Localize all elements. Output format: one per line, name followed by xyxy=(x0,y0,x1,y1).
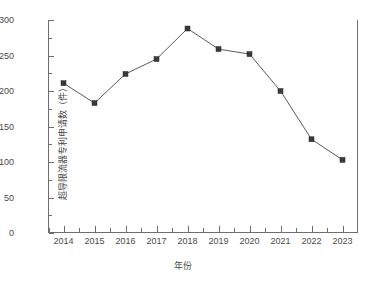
x-tick-label: 2023 xyxy=(332,236,352,246)
data-point xyxy=(154,57,159,62)
data-point xyxy=(61,81,66,86)
y-tick-label: 150 xyxy=(0,122,14,132)
x-tick-label: 2018 xyxy=(177,236,197,246)
y-tick-label: 50 xyxy=(4,193,14,203)
data-point xyxy=(185,26,190,31)
x-tick-label: 2021 xyxy=(270,236,290,246)
x-axis-title: 年份 xyxy=(0,259,366,272)
x-tick-label: 2019 xyxy=(208,236,228,246)
x-tick-label: 2017 xyxy=(146,236,166,246)
x-tick-label: 2022 xyxy=(301,236,321,246)
y-tick-label: 0 xyxy=(9,228,14,238)
data-point xyxy=(278,89,283,94)
y-tick-label: 100 xyxy=(0,157,14,167)
data-point xyxy=(123,71,128,76)
chart-figure: 超导限流器专利申请数（件） 年份 050100150200250300 2014… xyxy=(0,0,366,281)
series-line xyxy=(64,29,343,160)
y-tick-major xyxy=(49,233,54,234)
data-point xyxy=(92,101,97,106)
x-tick-label: 2020 xyxy=(239,236,259,246)
x-tick-label: 2015 xyxy=(84,236,104,246)
data-series-layer xyxy=(48,20,358,233)
data-point xyxy=(216,47,221,52)
x-tick-label: 2014 xyxy=(53,236,73,246)
data-point xyxy=(309,137,314,142)
data-point xyxy=(340,157,345,162)
y-tick-label: 250 xyxy=(0,51,14,61)
data-point xyxy=(247,52,252,57)
y-tick-label: 200 xyxy=(0,86,14,96)
y-tick-label: 300 xyxy=(0,15,14,25)
x-tick-label: 2016 xyxy=(115,236,135,246)
